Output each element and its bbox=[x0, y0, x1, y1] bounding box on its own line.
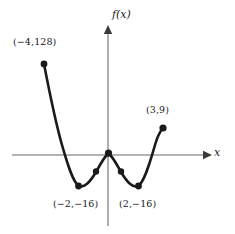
y-axis-arrow-icon bbox=[104, 25, 112, 34]
x-axis-arrow-icon bbox=[203, 151, 212, 159]
point-label-minus2-minus16: (−2,−16) bbox=[53, 199, 98, 209]
function-curve bbox=[44, 64, 163, 186]
data-point-minus4-128 bbox=[41, 61, 48, 68]
data-point-right-inflection bbox=[118, 168, 124, 174]
data-point-left-inflection bbox=[93, 168, 99, 174]
point-label-2-minus16: (2,−16) bbox=[119, 199, 156, 209]
y-axis-label: f(x) bbox=[112, 9, 131, 20]
point-label-minus4-128: (−4,128) bbox=[13, 37, 56, 47]
x-axis-label: x bbox=[214, 147, 220, 158]
data-point-3-9 bbox=[159, 124, 166, 131]
data-point-minus2-minus16 bbox=[75, 183, 82, 190]
point-label-3-9: (3,9) bbox=[146, 105, 169, 115]
data-point-origin bbox=[105, 150, 112, 157]
data-point-2-minus16 bbox=[135, 183, 142, 190]
function-graph-figure: f(x) x (−4,128) (3,9) (−2,−16) (2,−16) bbox=[0, 0, 235, 234]
